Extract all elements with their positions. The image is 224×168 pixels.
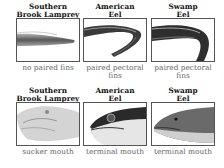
trait-caption: sucker mouth (12, 148, 84, 156)
species-title: Southern Brook Lamprey (16, 87, 80, 102)
american-eel-body-image (83, 18, 147, 62)
swamp-eel-head-icon (152, 103, 214, 145)
trait-caption: no paired fins (12, 64, 84, 72)
species-title: Swamp Eel (151, 87, 215, 102)
american-eel-body-icon (84, 19, 146, 61)
species-title: American Eel (83, 87, 147, 102)
trait-caption: paired pectoral fins (79, 64, 151, 80)
species-title: American Eel (83, 3, 147, 18)
trait-caption: terminal mouth (147, 148, 219, 156)
lamprey-head-icon (17, 103, 79, 145)
trait-caption: terminal mouth (79, 148, 151, 156)
lamprey-head-image (16, 102, 80, 146)
swamp-eel-body-icon (152, 19, 214, 61)
swamp-eel-head-image (151, 102, 215, 146)
american-eel-head-image (83, 102, 147, 146)
species-title: Southern Brook Lamprey (16, 3, 80, 18)
lamprey-body-image (16, 18, 80, 62)
trait-caption: paired pectoral fins (147, 64, 219, 80)
american-eel-head-icon (84, 103, 146, 145)
lamprey-body-icon (17, 19, 79, 61)
swamp-eel-body-image (151, 18, 215, 62)
species-title: Swamp Eel (151, 3, 215, 18)
